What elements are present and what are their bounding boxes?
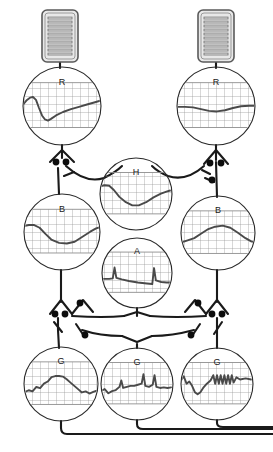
scope-grid — [24, 209, 100, 253]
scope-grid — [177, 83, 255, 128]
synapse-dot — [209, 311, 216, 318]
synapse-dot — [209, 177, 216, 184]
sensor-bar — [204, 53, 228, 55]
sensor-module[interactable] — [198, 10, 234, 62]
node-g-scope[interactable]: G — [101, 348, 173, 420]
wire-lowerleft-lateral — [72, 316, 124, 317]
neural-signal-diagram: RRBBHAGGG — [0, 0, 273, 452]
sensor-bar — [204, 17, 228, 19]
node-h-scope[interactable]: H — [100, 158, 172, 230]
synapse-dot — [52, 311, 59, 318]
sensor-bar — [48, 53, 72, 55]
scope-grid — [23, 83, 101, 128]
diagram-canvas: RRBBHAGGG — [0, 0, 273, 452]
wire-upperleft-to-bleft — [58, 168, 59, 194]
node-label: R — [59, 77, 66, 87]
sensor-bar — [204, 41, 228, 43]
sensor-bar — [48, 17, 72, 19]
fork-gmid — [122, 336, 152, 342]
node-g-scope[interactable]: G — [24, 347, 98, 421]
scope-grid — [24, 362, 98, 405]
synapse-dot — [63, 159, 70, 166]
sensor-bar — [48, 33, 72, 35]
node-r-scope[interactable]: R — [23, 67, 101, 145]
synapse-dot — [219, 311, 226, 318]
sensor-modules — [42, 10, 234, 62]
node-label: A — [134, 246, 140, 256]
synapse-dot — [218, 160, 225, 167]
sensor-bar — [204, 25, 228, 27]
node-b-scope[interactable]: B — [24, 194, 100, 270]
wire-lowerleft-down — [58, 318, 59, 348]
sensor-bar — [48, 29, 72, 31]
sensor-bar — [204, 45, 228, 47]
sensor-bar — [48, 41, 72, 43]
node-label: H — [133, 167, 140, 177]
synapse-dot — [188, 332, 195, 339]
wire-lowerright-lateral — [150, 316, 206, 317]
terminal-hook-right-upper — [202, 170, 210, 174]
sensor-bar — [204, 49, 228, 51]
node-label: G — [213, 357, 220, 367]
output-line-3[interactable] — [217, 420, 273, 427]
scope-grid — [181, 362, 253, 403]
sensor-module[interactable] — [42, 10, 78, 62]
node-r-scope[interactable]: R — [177, 67, 255, 145]
node-g-scope[interactable]: G — [181, 348, 253, 420]
node-label: G — [57, 356, 64, 366]
sensor-bar — [204, 33, 228, 35]
sensor-bar — [48, 25, 72, 27]
synapse-dot — [82, 332, 89, 339]
synapse-dot — [195, 300, 202, 307]
sensor-bar — [48, 45, 72, 47]
wire-upperright-to-bright — [216, 162, 217, 197]
sensor-bar — [204, 29, 228, 31]
synapse-dot — [53, 159, 60, 166]
synapse-dot — [62, 311, 69, 318]
node-label: R — [213, 77, 220, 87]
node-label: B — [59, 204, 65, 214]
sensor-bar — [204, 21, 228, 23]
terminal-hook-left-upper — [64, 172, 74, 176]
scope-grid — [181, 211, 255, 254]
node-b-scope[interactable]: B — [181, 196, 255, 270]
scope-grid — [102, 252, 172, 292]
sensor-bar — [48, 37, 72, 39]
signal-nodes: RRBBHAGGG — [23, 67, 255, 421]
node-label: G — [133, 357, 140, 367]
scope-grid — [101, 362, 173, 403]
synapse-dot — [77, 300, 84, 307]
node-a-scope[interactable]: A — [102, 238, 172, 308]
node-label: B — [215, 205, 221, 215]
sensor-bar — [48, 21, 72, 23]
sensor-bar — [48, 49, 72, 51]
sensor-bar — [204, 37, 228, 39]
synapse-dot — [207, 160, 214, 167]
